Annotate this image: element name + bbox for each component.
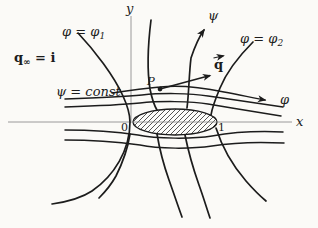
x-axis-label: x — [296, 114, 304, 129]
equipotential-psi-arrow — [187, 30, 204, 108]
psi-const-label: ψ = const — [56, 84, 122, 99]
phi2-label: φ = φ2 — [240, 31, 283, 48]
unit-label: 1 — [218, 121, 225, 134]
flow-diagram-svg: φ = φ1 q∞ = i ψ = const φ = φ2 ψ φ q P 0… — [0, 0, 318, 228]
equipotential-line — [216, 128, 266, 201]
streamline — [65, 140, 284, 148]
equipotential-phi2 — [211, 42, 253, 115]
flow-diagram: φ = φ1 q∞ = i ψ = const φ = φ2 ψ φ q P 0… — [0, 0, 318, 228]
equipotential-phi1 — [52, 33, 130, 204]
phi-arrow-label: φ — [280, 92, 290, 107]
equipotential-line — [148, 20, 157, 110]
origin-label: 0 — [121, 121, 128, 134]
y-axis-label: y — [125, 1, 134, 16]
equipotential-line — [157, 134, 182, 217]
q-vector-label: q — [214, 57, 223, 72]
point-p-label: P — [146, 74, 155, 88]
free-stream-label: q∞ = i — [14, 50, 56, 67]
point-p-dot — [158, 87, 163, 92]
psi-arrow-label: ψ — [208, 8, 219, 23]
phi1-label: φ = φ1 — [62, 24, 105, 41]
